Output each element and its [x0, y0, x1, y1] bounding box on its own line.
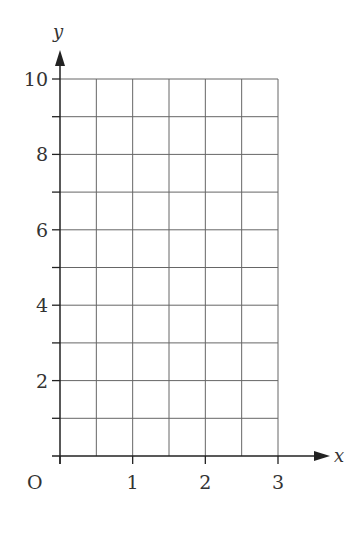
y-tick-label: 10 — [24, 68, 48, 90]
grid-lines — [60, 79, 278, 456]
axis-ticks — [52, 79, 278, 464]
origin-label: O — [27, 471, 43, 493]
y-axis-arrow-icon — [55, 50, 65, 66]
y-axis-label: y — [52, 21, 64, 42]
y-tick-labels: 246810 — [24, 68, 48, 392]
x-tick-label: 3 — [272, 471, 284, 493]
y-tick-label: 2 — [36, 370, 48, 392]
x-tick-label: 1 — [127, 471, 139, 493]
x-tick-labels: 123 — [127, 471, 284, 493]
y-tick-label: 6 — [36, 219, 48, 241]
y-tick-label: 4 — [36, 294, 48, 316]
x-axis-label: x — [334, 445, 344, 466]
x-tick-label: 2 — [199, 471, 211, 493]
y-tick-label: 8 — [36, 143, 48, 165]
x-axis-arrow-icon — [314, 451, 330, 461]
coordinate-grid-chart: x y O 123 246810 — [0, 0, 351, 534]
